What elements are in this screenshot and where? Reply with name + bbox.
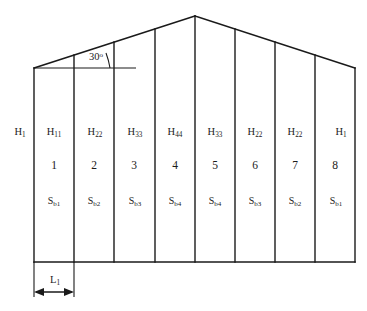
- building-cross-section-diagram: 30o H1 H11 H22 H33 H44 H33 H22 H22 H1 1 …: [0, 0, 367, 311]
- bay-area-label-6: Sb3: [249, 196, 262, 206]
- degree-symbol: o: [100, 51, 104, 59]
- roof-angle-label: 30o: [89, 52, 103, 63]
- bay-area-label-1: Sb1: [48, 196, 61, 206]
- diagram-canvas: [0, 0, 367, 311]
- dimension-arrowhead-left: [34, 288, 44, 296]
- width-dimension-label: L1: [50, 275, 60, 286]
- width-dimension-subscript: 1: [56, 279, 60, 287]
- bay-area-label-2: Sb2: [88, 196, 101, 206]
- bay-height-label-7: H22: [288, 127, 303, 138]
- bay-number-1: 1: [51, 160, 57, 172]
- bay-area-label-8: Sb1: [330, 196, 343, 206]
- bay-number-7: 7: [292, 160, 298, 172]
- roof-angle-value: 30: [89, 51, 100, 62]
- left-exterior-height-label: H1: [14, 127, 25, 138]
- bay-height-label-1: H11: [47, 127, 62, 138]
- bay-area-label-4: Sb4: [169, 196, 182, 206]
- bay-number-2: 2: [91, 160, 97, 172]
- bay-area-label-3: Sb3: [129, 196, 142, 206]
- bay-height-label-6: H22: [248, 127, 263, 138]
- bay-number-8: 8: [332, 160, 338, 172]
- dimension-arrowhead-right: [64, 288, 74, 296]
- bay-height-label-2: H22: [88, 127, 103, 138]
- bay-height-label-5: H33: [208, 127, 223, 138]
- bay-height-label-4: H44: [168, 127, 183, 138]
- bay-area-label-5: Sb4: [209, 196, 222, 206]
- bay-number-4: 4: [172, 160, 178, 172]
- bay-number-3: 3: [131, 160, 137, 172]
- bay-height-label-8: H1: [335, 127, 346, 138]
- bay-height-label-3: H33: [128, 127, 143, 138]
- bay-number-5: 5: [212, 160, 218, 172]
- bay-number-6: 6: [252, 160, 258, 172]
- left-height-symbol: H: [14, 126, 22, 137]
- bay-area-label-7: Sb2: [289, 196, 302, 206]
- angle-arc: [106, 53, 110, 68]
- left-height-subscript: 1: [22, 131, 26, 139]
